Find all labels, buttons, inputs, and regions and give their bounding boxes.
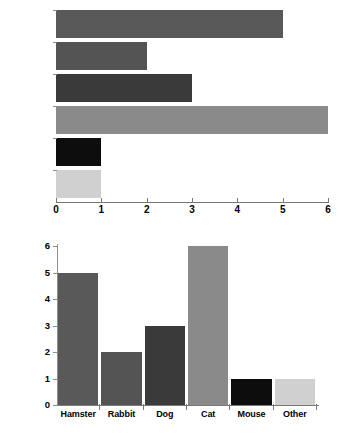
y-axis-tick	[53, 379, 58, 380]
y-axis-tick	[53, 299, 58, 300]
bar-row: Dog	[56, 74, 328, 102]
x-axis-tick	[99, 404, 100, 410]
bar-column	[58, 246, 98, 405]
x-axis-label: 6	[313, 204, 341, 215]
y-axis-tick	[53, 273, 58, 274]
bar-row: Rabbit	[56, 42, 328, 70]
category-label-hamster: Hamster	[58, 409, 98, 419]
bar-column	[231, 246, 271, 405]
category-label-other: Other	[275, 409, 315, 419]
x-axis-tick	[56, 198, 57, 203]
y-axis-label: 0	[36, 399, 50, 410]
bar-other	[275, 379, 315, 406]
y-axis-tick	[53, 405, 58, 406]
y-axis-tick	[53, 10, 57, 11]
bar-cat	[188, 246, 228, 405]
x-axis-tick	[143, 404, 144, 410]
y-axis-label: 2	[36, 346, 50, 357]
x-axis-tick	[237, 198, 238, 203]
bar-column	[275, 246, 315, 405]
x-axis-tick	[273, 404, 274, 410]
x-axis-tick	[192, 198, 193, 203]
horizontal-plot-area: HamsterRabbitDogCatMouseOther	[56, 10, 328, 202]
horizontal-bar-chart: HamsterRabbitDogCatMouseOther 0123456	[0, 0, 341, 218]
category-label-cat: Cat	[188, 409, 228, 419]
bar-dog	[56, 74, 192, 102]
bar-mouse	[56, 138, 101, 166]
bar-rabbit	[101, 352, 141, 405]
bar-row: Other	[56, 170, 328, 198]
x-axis-label: 0	[41, 204, 71, 215]
category-label-mouse: Mouse	[231, 409, 271, 419]
y-axis-tick	[53, 42, 57, 43]
bar-row: Mouse	[56, 138, 328, 166]
bar-mouse	[231, 379, 271, 406]
x-axis-label: 1	[86, 204, 116, 215]
x-axis-tick	[186, 404, 187, 410]
x-axis-label: 4	[222, 204, 252, 215]
bar-hamster	[56, 10, 283, 38]
vertical-x-axis-line	[57, 405, 319, 406]
category-label-rabbit: Rabbit	[101, 409, 141, 419]
x-axis-tick	[328, 198, 329, 203]
y-axis-label: 5	[36, 267, 50, 278]
bar-column	[101, 246, 141, 405]
bar-hamster	[58, 273, 98, 406]
y-axis-tick	[53, 352, 58, 353]
y-axis-label: 1	[36, 373, 50, 384]
y-axis-tick	[53, 170, 57, 171]
y-axis-tick	[53, 326, 58, 327]
y-axis-label: 3	[36, 320, 50, 331]
bar-rabbit	[56, 42, 147, 70]
y-axis-tick	[53, 138, 57, 139]
x-axis-label: 2	[132, 204, 162, 215]
bar-cat	[56, 106, 328, 134]
y-axis-label: 6	[36, 240, 50, 251]
y-axis-tick	[53, 74, 57, 75]
y-axis-label: 4	[36, 293, 50, 304]
vertical-plot-area	[58, 246, 318, 405]
y-axis-tick	[53, 246, 58, 247]
x-axis-label: 3	[177, 204, 207, 215]
x-axis-tick	[316, 404, 317, 410]
bar-row: Cat	[56, 106, 328, 134]
bar-other	[56, 170, 101, 198]
x-axis-label: 5	[268, 204, 298, 215]
y-axis-tick	[53, 106, 57, 107]
x-axis-tick	[283, 198, 284, 203]
bar-column	[188, 246, 228, 405]
category-label-dog: Dog	[145, 409, 185, 419]
x-axis-tick	[101, 198, 102, 203]
x-axis-tick	[147, 198, 148, 203]
vertical-bar-chart: HamsterRabbitDogCatMouseOther0123456	[0, 218, 341, 436]
x-axis-tick	[229, 404, 230, 410]
bar-row: Hamster	[56, 10, 328, 38]
bar-dog	[145, 326, 185, 406]
bar-column	[145, 246, 185, 405]
